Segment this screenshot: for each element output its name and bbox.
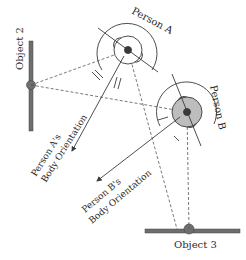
gaze-b-to-object-2 xyxy=(31,85,187,112)
person-a xyxy=(92,23,158,89)
object-3-label: Object 3 xyxy=(174,239,217,250)
person-a-shoulder-axis xyxy=(98,28,158,72)
person-b-orientation-arrow xyxy=(97,117,180,181)
person-a-orientation-arrow xyxy=(72,56,124,151)
object-2-label: Object 2 xyxy=(14,27,25,70)
object-2 xyxy=(27,41,36,131)
person-b-label: Person B xyxy=(208,84,228,130)
person-a-label: Person A xyxy=(130,5,176,36)
gaze-b-to-object-3 xyxy=(187,112,189,229)
person-b xyxy=(157,74,217,146)
object-3 xyxy=(145,224,240,234)
gaze-a-to-object-2 xyxy=(31,50,128,85)
gaze-a-to-object-3 xyxy=(128,50,177,229)
f-formation-diagram: Object 2 Object 3 Person A xyxy=(0,0,246,260)
